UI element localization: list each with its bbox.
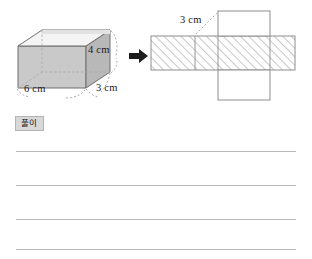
net-figure [148, 4, 312, 106]
dimension-label-width: 6 cm [24, 83, 46, 94]
net-top-flap [218, 11, 270, 36]
net-dimension-label: 3 cm [180, 14, 202, 25]
figure-row: 4 cm 6 cm 3 cm [0, 0, 312, 110]
worksheet-page: 4 cm 6 cm 3 cm [0, 0, 312, 259]
solution-badge: 풀이 [15, 116, 44, 131]
arrow-shape [129, 49, 148, 63]
right-arrow-svg [129, 48, 149, 64]
right-arrow-icon [129, 48, 149, 64]
net-bottom-flap [218, 70, 270, 100]
box-net-svg [148, 4, 312, 106]
net-lateral-band [151, 36, 295, 70]
height-leader-lower [111, 58, 117, 73]
prism-front-face [18, 46, 86, 88]
answer-lines [0, 140, 312, 259]
dimension-label-height: 4 cm [88, 44, 110, 55]
width-leader-right [66, 90, 85, 98]
answer-line-2[interactable] [16, 185, 296, 186]
height-leader [111, 31, 117, 56]
answer-line-3[interactable] [16, 219, 296, 220]
answer-line-4[interactable] [16, 249, 296, 250]
prism-inner-back-wall [42, 30, 110, 34]
dimension-label-depth: 3 cm [96, 82, 118, 93]
answer-line-1[interactable] [16, 151, 296, 152]
